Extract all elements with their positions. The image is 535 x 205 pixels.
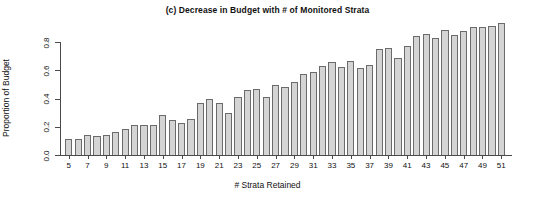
bar: [385, 48, 392, 155]
bar-slot: [92, 14, 101, 155]
bar: [150, 125, 157, 155]
bar: [131, 125, 138, 155]
bar-slot: [130, 14, 139, 155]
x-tick-label: 25: [252, 161, 261, 170]
x-axis-title: # Strata Retained: [0, 180, 535, 190]
bar: [338, 67, 345, 155]
bar-slot: [468, 14, 477, 155]
x-tick: [219, 155, 220, 159]
x-tick-label: 31: [309, 161, 318, 170]
bar: [328, 62, 335, 155]
bar: [244, 90, 251, 155]
bar-slot: [167, 14, 176, 155]
bar-slot: [299, 14, 308, 155]
x-tick: [88, 155, 89, 159]
bar: [234, 97, 241, 155]
bar: [197, 103, 204, 155]
y-tick: 0.2: [55, 127, 60, 128]
x-tick-label: 21: [215, 161, 224, 170]
bar-slot: [83, 14, 92, 155]
x-tick: [106, 155, 107, 159]
bar: [394, 58, 401, 155]
x-tick-label: 23: [234, 161, 243, 170]
x-tick-label: 11: [121, 161, 129, 170]
bar: [470, 27, 477, 155]
bar: [488, 26, 495, 155]
bar-slot: [337, 14, 346, 155]
x-tick-label: 29: [290, 161, 299, 170]
bar-slot: [318, 14, 327, 155]
bar-slot: [356, 14, 365, 155]
y-tick: 0.4: [55, 99, 60, 100]
x-tick: [144, 155, 145, 159]
bar-slot: [393, 14, 402, 155]
bar-slot: [384, 14, 393, 155]
x-tick: [351, 155, 352, 159]
x-tick: [313, 155, 314, 159]
x-tick-label: 39: [384, 161, 393, 170]
bar-slot: [459, 14, 468, 155]
bar-slot: [440, 14, 449, 155]
x-tick: [370, 155, 371, 159]
bar: [413, 36, 420, 155]
bar: [84, 135, 91, 155]
bar-slot: [243, 14, 252, 155]
bar-slot: [421, 14, 430, 155]
bar-slot: [450, 14, 459, 155]
bar: [451, 35, 458, 155]
x-tick-label: 43: [422, 161, 431, 170]
bar-slot: [64, 14, 73, 155]
x-tick: [464, 155, 465, 159]
bar-slot: [290, 14, 299, 155]
bar: [347, 61, 354, 155]
x-tick: [388, 155, 389, 159]
bar-slot: [139, 14, 148, 155]
y-tick-label: 0.4: [42, 93, 51, 104]
bar: [357, 68, 364, 155]
x-tick: [163, 155, 164, 159]
x-tick-label: 5: [66, 161, 70, 170]
bar-slot: [158, 14, 167, 155]
y-tick: 0.0: [55, 155, 60, 156]
x-tick-label: 41: [403, 161, 412, 170]
bar: [432, 38, 439, 155]
x-tick-label: 15: [158, 161, 167, 170]
bar: [140, 125, 147, 155]
bar-slot: [73, 14, 82, 155]
bar: [225, 113, 232, 155]
bar: [498, 23, 505, 155]
bar: [423, 34, 430, 155]
bar: [263, 97, 270, 155]
x-tick: [276, 155, 277, 159]
bar: [366, 65, 373, 155]
x-tick-label: 51: [497, 161, 506, 170]
x-tick-label: 45: [440, 161, 449, 170]
bar-slot: [487, 14, 496, 155]
bar: [65, 139, 72, 155]
x-tick: [69, 155, 70, 159]
x-tick: [445, 155, 446, 159]
plot-area: [64, 14, 506, 155]
x-tick: [482, 155, 483, 159]
bar: [404, 46, 411, 155]
bar: [319, 66, 326, 155]
y-tick: 0.8: [55, 42, 60, 43]
x-tick-label: 33: [328, 161, 337, 170]
y-axis-line: [60, 42, 61, 156]
x-tick-label: 27: [271, 161, 280, 170]
bar-slot: [252, 14, 261, 155]
bar-slot: [102, 14, 111, 155]
x-tick-label: 19: [196, 161, 205, 170]
bar-slot: [271, 14, 280, 155]
bar-slot: [374, 14, 383, 155]
bar-slot: [149, 14, 158, 155]
y-tick-label: 0.2: [42, 122, 51, 133]
y-axis-title: Proportion of Budget: [1, 38, 11, 158]
bar: [460, 31, 467, 155]
bar-slot: [280, 14, 289, 155]
bar: [479, 27, 486, 155]
bar-slot: [478, 14, 487, 155]
x-tick-label: 17: [177, 161, 186, 170]
y-tick-label: 0.6: [42, 65, 51, 76]
bar-slot: [224, 14, 233, 155]
